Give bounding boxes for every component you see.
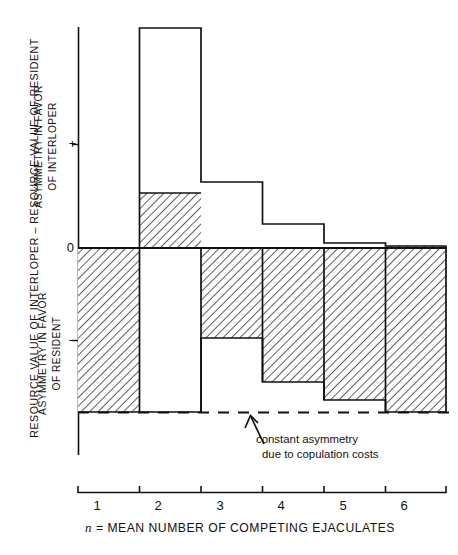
- bar-3-positive-open: [201, 182, 263, 248]
- bar-2-negative: [140, 248, 202, 412]
- bar-3-negative: [201, 248, 263, 338]
- bar-6-negative: [386, 248, 447, 412]
- bar-chart-plot: [0, 0, 458, 555]
- bar-4-positive-open: [263, 224, 325, 248]
- up-arrow-icon: [251, 417, 264, 444]
- bar-5-negative: [324, 248, 386, 400]
- bar-1-negative: [78, 248, 140, 412]
- bar-4-negative: [263, 248, 325, 382]
- bar-2-positive-open: [140, 28, 202, 193]
- bar-2-positive-hatched: [140, 193, 202, 248]
